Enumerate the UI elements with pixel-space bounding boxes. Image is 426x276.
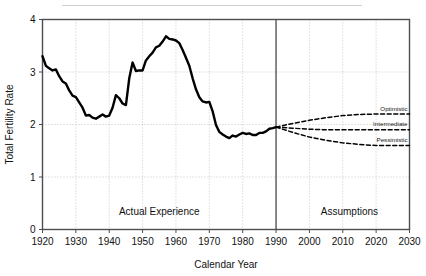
fertility-rate-chart-figure: OptimisticIntermediatePessimistic1920193… <box>0 0 426 276</box>
region-label-assumptions: Assumptions <box>321 206 378 217</box>
region-label-actual-experience: Actual Experience <box>119 206 200 217</box>
xtick-label-1960: 1960 <box>165 236 188 247</box>
ytick-label-3: 3 <box>30 67 36 78</box>
xtick-label-2030: 2030 <box>398 236 421 247</box>
xtick-label-1990: 1990 <box>265 236 288 247</box>
xtick-label-2010: 2010 <box>332 236 355 247</box>
xtick-label-1950: 1950 <box>131 236 154 247</box>
xtick-label-2000: 2000 <box>298 236 321 247</box>
series-label-pessimistic: Pessimistic <box>377 136 408 143</box>
ytick-label-1: 1 <box>30 172 36 183</box>
xtick-label-1920: 1920 <box>31 236 54 247</box>
xtick-label-1940: 1940 <box>98 236 121 247</box>
chart-canvas: OptimisticIntermediatePessimistic1920193… <box>0 0 426 276</box>
x-axis-title: Calendar Year <box>194 259 258 270</box>
xtick-label-1930: 1930 <box>65 236 88 247</box>
y-axis-title: Total Fertility Rate <box>4 84 15 164</box>
series-label-optimistic: Optimistic <box>380 105 407 112</box>
series-group <box>43 36 410 145</box>
xtick-label-1970: 1970 <box>198 236 221 247</box>
series-line-actual-experience <box>43 36 277 138</box>
xtick-label-1980: 1980 <box>232 236 255 247</box>
series-label-intermediate: Intermediate <box>373 120 408 127</box>
gridlines <box>43 20 410 230</box>
ytick-label-4: 4 <box>30 14 36 25</box>
ytick-label-2: 2 <box>30 119 36 130</box>
ytick-label-0: 0 <box>30 224 36 235</box>
xtick-label-2020: 2020 <box>365 236 388 247</box>
